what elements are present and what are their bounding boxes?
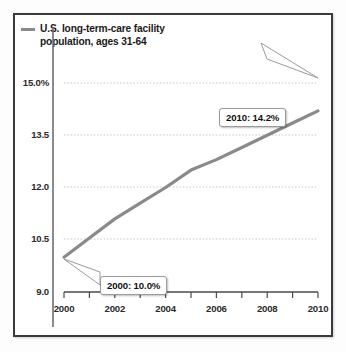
- callout-pointers: [64, 43, 318, 285]
- chart-frame: U.S. long-term-care facility population,…: [13, 13, 333, 337]
- y-tick-label-2: 12.0: [5, 181, 49, 192]
- x-tick-label-1: 2002: [95, 303, 135, 314]
- y-tick-label-1: 13.5: [5, 129, 49, 140]
- y-tick-label-0: 15.0%: [5, 77, 49, 88]
- y-tick-label-4: 9.0: [5, 286, 49, 297]
- callout-pointer-start: [64, 259, 100, 285]
- plot-area: [15, 15, 331, 335]
- y-tick-label-3: 10.5: [5, 233, 49, 244]
- x-tick-label-5: 2010: [298, 303, 338, 314]
- x-tick-label-2: 2004: [146, 303, 186, 314]
- x-tick-label-4: 2008: [247, 303, 287, 314]
- x-tick-label-3: 2006: [196, 303, 236, 314]
- callout-pointer-end: [261, 43, 318, 78]
- x-tick-label-0: 2000: [44, 303, 84, 314]
- chart-figure: U.S. long-term-care facility population,…: [0, 0, 346, 352]
- gridlines: [64, 83, 318, 239]
- data-series-line: [64, 111, 318, 257]
- callout-end-value: 2010: 14.2%: [219, 108, 286, 127]
- callout-start-value: 2000: 10.0%: [100, 276, 167, 295]
